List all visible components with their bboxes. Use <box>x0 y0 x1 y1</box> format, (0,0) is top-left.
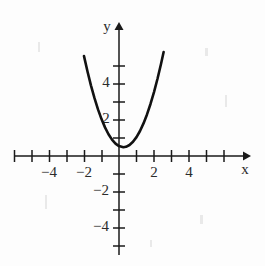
x-tick-label-4: 4 <box>185 164 193 180</box>
graph-figure: −4 −2 2 4 4 2 −2 −4 y x <box>0 0 265 266</box>
x-axis-label: x <box>241 161 249 177</box>
axis-names: y x <box>103 18 249 177</box>
plot-canvas: −4 −2 2 4 4 2 −2 −4 y x <box>0 0 265 266</box>
x-axis-arrowhead <box>243 152 251 161</box>
y-tick-label-neg4: −4 <box>93 218 109 234</box>
y-tick-label-neg2: −2 <box>93 182 109 198</box>
x-tick-label-neg2: −2 <box>76 164 92 180</box>
x-tick-labels: −4 −2 2 4 <box>41 164 193 180</box>
y-tick-label-4: 4 <box>102 74 110 90</box>
y-axis-label: y <box>103 18 111 34</box>
x-tick-label-2: 2 <box>150 164 158 180</box>
x-tick-label-neg4: −4 <box>41 164 57 180</box>
y-axis-arrowhead <box>115 22 124 30</box>
